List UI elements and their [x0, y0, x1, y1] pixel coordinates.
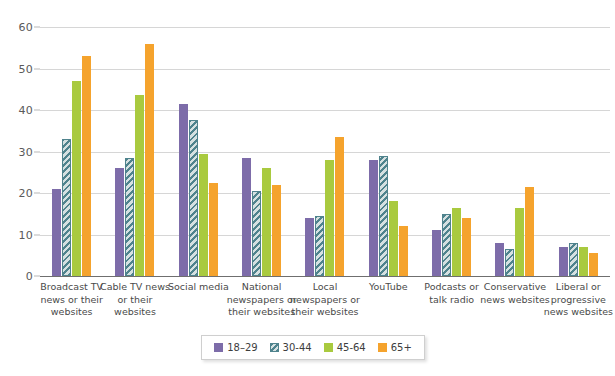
bar-group [230, 27, 293, 276]
y-axis-tick-label: 0 [5, 270, 33, 283]
bar-group-bars [420, 27, 483, 276]
bar [262, 168, 271, 276]
x-axis-category-label: Nationalnewspapers ortheir websites [226, 281, 297, 319]
y-axis-tick-label: 60 [5, 21, 33, 34]
x-axis-category-label-line: Podcasts or [416, 281, 487, 294]
x-axis-category-label-line: talk radio [416, 294, 487, 307]
bar [579, 247, 588, 276]
x-axis-category-label-line: or their [99, 294, 170, 307]
bar [525, 187, 534, 276]
bar [369, 160, 378, 276]
bar [399, 226, 408, 276]
y-axis-tick-label: 30 [5, 145, 33, 158]
y-axis-tick-label: 20 [5, 187, 33, 200]
bar [379, 156, 388, 276]
x-axis-category-label: Conservativenews websites [479, 281, 550, 306]
x-axis-category-label: Social media [163, 281, 234, 294]
bar [495, 243, 504, 276]
x-axis-category-label-line: their websites [289, 306, 360, 319]
bar [252, 191, 261, 276]
bar [432, 230, 441, 276]
legend-swatch-icon [270, 343, 279, 352]
bar [125, 158, 134, 276]
bar-group-bars [230, 27, 293, 276]
bar-group [420, 27, 483, 276]
legend-item[interactable]: 18–29 [214, 342, 257, 353]
bar [505, 249, 514, 276]
x-axis-category-label-line: Broadcast TV [36, 281, 107, 294]
x-axis-category-label: Cable TV newsor theirwebsites [99, 281, 170, 319]
bar [335, 137, 344, 276]
bar [515, 208, 524, 276]
bar-group [293, 27, 356, 276]
x-axis-category-label: Liberal orprogressivenews websites [543, 281, 614, 319]
bar [452, 208, 461, 276]
legend-item[interactable]: 65+ [378, 342, 412, 353]
y-axis-tick-label: 40 [5, 104, 33, 117]
x-axis-category-label-line: newspapers or [289, 294, 360, 307]
x-axis-category-label-line: news websites [543, 306, 614, 319]
y-axis-tick-label: 10 [5, 228, 33, 241]
bar [62, 139, 71, 276]
x-axis-category-label-line: websites [99, 306, 170, 319]
bar-group-bars [357, 27, 420, 276]
bar-group [483, 27, 546, 276]
x-axis-category-label-line: news or their [36, 294, 107, 307]
bar-group [547, 27, 610, 276]
bar-group [40, 27, 103, 276]
x-axis-category-label-line: progressive [543, 294, 614, 307]
chart-legend: 18–2930-4445-6465+ [201, 335, 425, 360]
legend-item[interactable]: 30-44 [270, 342, 312, 353]
bar-group-bars [547, 27, 610, 276]
bar-group [103, 27, 166, 276]
bar [209, 183, 218, 276]
bar-group [167, 27, 230, 276]
bar [115, 168, 124, 276]
x-axis-category-labels: Broadcast TVnews or theirwebsitesCable T… [40, 281, 610, 336]
legend-label: 65+ [391, 342, 412, 353]
bar [82, 56, 91, 276]
x-axis-category-label-line: YouTube [353, 281, 424, 294]
bar [389, 201, 398, 276]
bar [462, 218, 471, 276]
bar [179, 104, 188, 276]
bar [305, 218, 314, 276]
x-axis-line [40, 276, 610, 277]
x-axis-category-label-line: Cable TV news [99, 281, 170, 294]
y-axis: 0102030405060 [0, 27, 33, 276]
bar [315, 216, 324, 276]
bar [189, 120, 198, 276]
bar [325, 160, 334, 276]
bar [135, 95, 144, 276]
legend-label: 45-64 [337, 342, 366, 353]
bar [199, 154, 208, 276]
legend-swatch-icon [214, 343, 223, 352]
bar [589, 253, 598, 276]
x-axis-category-label-line: websites [36, 306, 107, 319]
plot-area [40, 27, 610, 276]
y-axis-tick-label: 50 [5, 62, 33, 75]
bar [442, 214, 451, 276]
bar [72, 81, 81, 276]
x-axis-category-label: Podcasts ortalk radio [416, 281, 487, 306]
bar [559, 247, 568, 276]
x-axis-category-label-line: newspapers or [226, 294, 297, 307]
x-axis-category-label: Broadcast TVnews or theirwebsites [36, 281, 107, 319]
bar [272, 185, 281, 276]
x-axis-category-label-line: Liberal or [543, 281, 614, 294]
legend-swatch-icon [378, 343, 387, 352]
legend-label: 30-44 [283, 342, 312, 353]
x-axis-category-label: Localnewspapers ortheir websites [289, 281, 360, 319]
bar-group [357, 27, 420, 276]
bar-group-bars [483, 27, 546, 276]
bar [242, 158, 251, 276]
bar-group-bars [103, 27, 166, 276]
legend-item[interactable]: 45-64 [324, 342, 366, 353]
bar-group-bars [293, 27, 356, 276]
bar-chart: 0102030405060 Broadcast TVnews or theirw… [0, 0, 615, 376]
x-axis-category-label: YouTube [353, 281, 424, 294]
bar [145, 44, 154, 276]
x-axis-category-label-line: their websites [226, 306, 297, 319]
bar-group-bars [167, 27, 230, 276]
bar-group-bars [40, 27, 103, 276]
